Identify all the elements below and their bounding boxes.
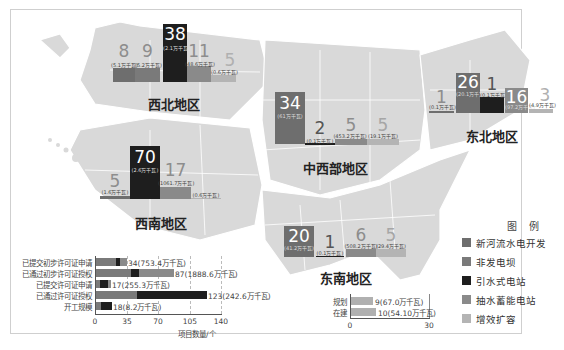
x-tick: 30 xyxy=(414,321,444,330)
x-axis-line xyxy=(95,314,222,315)
sw-bar-new-river xyxy=(100,196,130,199)
sw-bar-pumped-storage xyxy=(160,187,191,199)
row-value: 87(1888.6万千瓦) xyxy=(175,268,238,279)
nw-bar-non-power-dam xyxy=(135,68,160,82)
sw-cap-diversion: (2.6万千瓦) xyxy=(130,167,160,173)
mw-count-pumped-storage: 5 xyxy=(335,117,367,134)
row-label: 已提交许可证申请 xyxy=(0,279,92,290)
row-label: 已通过许可证授权 xyxy=(0,290,92,301)
ne-bar-new-river xyxy=(429,111,454,113)
legend-swatch xyxy=(462,314,471,323)
se-cap-capacity-increase: (29.4万千瓦) xyxy=(375,243,407,249)
sw-count-pumped-storage: 17 xyxy=(160,162,191,179)
mw-cap-diversion: (0.1万千瓦) xyxy=(305,138,335,144)
legend-swatch xyxy=(462,257,471,266)
x-tick: 0 xyxy=(335,321,365,330)
ne-count-diversion: 1 xyxy=(480,76,504,93)
row-value: 34(753.4万千瓦) xyxy=(128,257,186,268)
sw-region-label: 西南地区 xyxy=(135,213,187,232)
sw-count-new-river: 5 xyxy=(100,173,130,190)
sw-cap-new-river: (1.6万千瓦) xyxy=(100,189,130,195)
mw-bar-pumped-storage xyxy=(335,139,367,145)
mw-cap-capacity-increase: (19.1万千瓦) xyxy=(367,133,399,139)
x-axis-label: 项目数量/个 xyxy=(178,328,216,339)
x-tick: 105 xyxy=(175,317,205,326)
legend-swatch xyxy=(462,295,471,304)
row-value: 10(54.10万千瓦) xyxy=(378,307,436,318)
nw-bar-new-river xyxy=(113,68,135,82)
row-bar xyxy=(96,291,207,299)
row-label: 已通过初步许可证授权 xyxy=(0,268,92,279)
nw-cap-pumped-storage: (48.6万千瓦) xyxy=(185,61,213,67)
row-label: 规划 xyxy=(310,296,347,307)
ne-bar-diversion xyxy=(480,97,504,113)
row-bar xyxy=(96,280,111,288)
nw-region-label: 西北地区 xyxy=(148,94,200,113)
x-tick: 0 xyxy=(80,317,110,326)
nw-bar-pumped-storage xyxy=(187,66,211,82)
row-bar xyxy=(351,308,376,316)
gridline xyxy=(190,256,191,314)
se-bar-pumped-storage xyxy=(346,249,376,257)
se-count-non-power-dam: 20 xyxy=(284,228,314,245)
nw-bar-capacity-increase xyxy=(211,75,236,82)
legend-label: 非发电坝 xyxy=(476,255,516,269)
legend-label: 引水式电站 xyxy=(476,274,526,288)
ne-region-label: 东北地区 xyxy=(466,126,518,145)
legend-item-pumped-storage: 抽水蓄能电站 xyxy=(462,290,564,309)
nw-count-new-river: 8 xyxy=(113,43,135,60)
se-bar-diversion xyxy=(316,256,344,257)
row-label: 开工规模 xyxy=(0,301,92,312)
x-axis-line xyxy=(350,318,430,319)
legend-item-capacity-increase: 增效扩容 xyxy=(462,309,564,328)
nw-cap-non-power-dam: (5.2万千瓦) xyxy=(135,62,160,68)
legend: 图 例 新河流水电开发 非发电坝 引水式电站 抽水蓄能电站 增效扩容 xyxy=(462,218,564,328)
mw-count-non-power-dam: 34 xyxy=(275,95,305,112)
row-value: 123(242.6万千瓦) xyxy=(208,290,271,301)
mw-cap-pumped-storage: (453.2万千瓦) xyxy=(333,133,367,139)
se-bar-capacity-increase xyxy=(376,249,406,257)
sw-cap-pumped-storage: (1061.7万千瓦) xyxy=(158,180,194,186)
se-count-diversion: 1 xyxy=(316,234,344,251)
x-tick: 70 xyxy=(143,317,173,326)
mw-bar-capacity-increase xyxy=(367,139,399,145)
x-tick: 35 xyxy=(112,317,142,326)
ne-cap-pumped-storage: (97.2万千瓦) xyxy=(505,104,528,110)
mw-count-capacity-increase: 5 xyxy=(367,117,399,134)
legend-swatch xyxy=(462,238,471,247)
legend-label: 抽水蓄能电站 xyxy=(476,293,536,307)
se-cap-diversion: (0.1万千瓦) xyxy=(316,250,344,256)
legend-swatch xyxy=(462,276,471,285)
row-bar xyxy=(96,269,174,277)
ne-cap-capacity-increase: (4.9万千瓦) xyxy=(529,102,555,108)
nw-count-diversion: 38 xyxy=(163,26,187,43)
ne-count-non-power-dam: 26 xyxy=(456,74,480,91)
mw-region-label: 中西部地区 xyxy=(303,158,368,177)
gridline xyxy=(221,256,222,314)
legend-item-new-river: 新河流水电开发 xyxy=(462,233,564,252)
legend-label: 增效扩容 xyxy=(476,312,516,326)
ne-cap-non-power-dam: (20.1万千瓦) xyxy=(456,91,480,97)
nw-cap-new-river: (5.1万千瓦) xyxy=(111,62,135,68)
nw-count-non-power-dam: 9 xyxy=(135,43,160,60)
ne-cap-diversion: (0.1万千瓦) xyxy=(480,92,504,98)
se-count-pumped-storage: 6 xyxy=(346,227,376,244)
se-cap-non-power-dam: (41.2万千瓦) xyxy=(284,245,314,251)
sw-cap-capacity-increase: (0.6万千瓦) xyxy=(191,192,221,198)
se-cap-pumped-storage: (508.2万千瓦) xyxy=(344,243,378,249)
legend-item-non-power-dam: 非发电坝 xyxy=(462,252,564,271)
mw-cap-non-power-dam: (61万千瓦) xyxy=(275,113,305,119)
mw-count-diversion: 2 xyxy=(305,120,335,137)
row-bar xyxy=(351,297,373,305)
x-tick: 140 xyxy=(206,317,236,326)
row-bar xyxy=(96,258,127,266)
sw-bar-capacity-increase xyxy=(191,198,221,199)
sw-count-diversion: 70 xyxy=(130,149,160,166)
row-value: 18(8.2万千瓦) xyxy=(113,301,161,312)
legend-title: 图 例 xyxy=(480,218,564,233)
nw-cap-diversion: (2.1万千瓦) xyxy=(163,45,187,51)
nw-cap-capacity-increase: (0.6万千瓦) xyxy=(211,69,237,75)
nw-count-pumped-storage: 11 xyxy=(187,43,211,60)
se-region-label: 东南地区 xyxy=(320,268,372,287)
ne-cap-new-river: (0.1万千瓦) xyxy=(429,104,454,110)
